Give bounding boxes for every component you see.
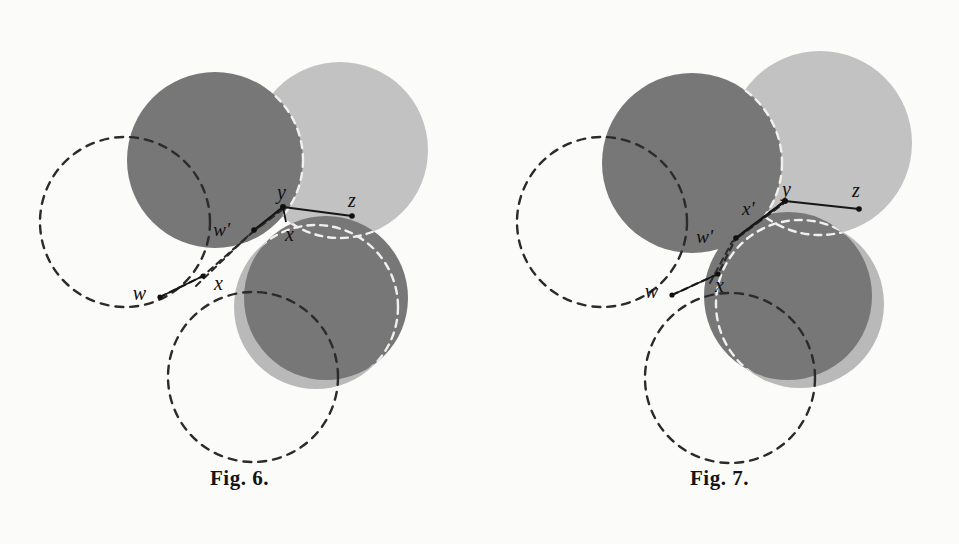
point-label-x-inner: x (284, 223, 294, 245)
point-dot-z (856, 206, 862, 212)
figure-page: w x w' x y z Fig. 6. (0, 0, 959, 544)
point-dot-w (669, 292, 674, 297)
point-dot-w-prime (251, 227, 257, 233)
point-label-x-prime: x' (741, 198, 755, 219)
point-dot-x (200, 273, 205, 278)
point-label-y: y (275, 181, 286, 204)
point-label-y: y (780, 178, 791, 201)
figure-7-caption: Fig. 7. (480, 466, 959, 491)
figure-7: w x w' x' y z Fig. 7. (480, 0, 959, 544)
point-label-w: w (645, 280, 659, 302)
point-label-x: x (714, 274, 724, 296)
point-dot-w-prime (733, 235, 739, 241)
lower-right-dark-disk (704, 212, 872, 380)
point-dot-z (349, 213, 355, 219)
point-label-z: z (347, 189, 356, 211)
point-label-w: w (133, 282, 147, 304)
figure-6: w x w' x y z Fig. 6. (0, 0, 479, 544)
point-label-w-prime: w' (213, 219, 231, 240)
point-dot-y (280, 204, 286, 210)
lower-right-dark-disk (244, 216, 408, 380)
figure-6-canvas: w x w' x y z (0, 0, 479, 470)
figure-6-caption: Fig. 6. (0, 466, 479, 491)
point-label-z: z (851, 179, 860, 201)
figure-7-canvas: w x w' x' y z (480, 0, 959, 470)
point-label-w-prime: w' (696, 226, 714, 247)
point-label-x: x (213, 272, 223, 294)
point-dot-w (157, 294, 162, 299)
